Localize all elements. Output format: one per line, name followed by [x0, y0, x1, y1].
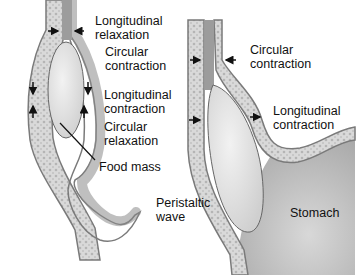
- label-line: contraction: [104, 102, 171, 116]
- label-longitudinal-contraction-left: Longitudinal contraction: [104, 88, 171, 116]
- label-food-mass: Food mass: [99, 160, 161, 174]
- label-line: Longitudinal: [104, 88, 171, 102]
- label-line: Circular: [104, 120, 158, 134]
- label-longitudinal-contraction-right: Longitudinal contraction: [273, 104, 340, 132]
- peristalsis-diagram: Longitudinal relaxation Circular contrac…: [0, 0, 362, 275]
- label-line: Circular: [250, 43, 311, 57]
- illustration: [0, 0, 362, 275]
- label-line: Longitudinal: [273, 104, 340, 118]
- label-circular-contraction-left: Circular contraction: [105, 45, 166, 73]
- label-longitudinal-relaxation: Longitudinal relaxation: [95, 14, 162, 42]
- label-line: contraction: [273, 118, 340, 132]
- label-circular-contraction-right: Circular contraction: [250, 43, 311, 71]
- label-line: Peristaltic: [156, 196, 210, 210]
- label-line: relaxation: [95, 28, 162, 42]
- label-stomach: Stomach: [290, 206, 339, 220]
- label-peristaltic-wave: Peristaltic wave: [156, 196, 210, 224]
- label-line: relaxation: [104, 134, 158, 148]
- label-line: Food mass: [99, 160, 161, 174]
- label-circular-relaxation: Circular relaxation: [104, 120, 158, 148]
- label-line: contraction: [250, 57, 311, 71]
- label-line: Circular: [105, 45, 166, 59]
- label-line: wave: [156, 210, 210, 224]
- label-line: Longitudinal: [95, 14, 162, 28]
- label-line: contraction: [105, 59, 166, 73]
- label-line: Stomach: [290, 206, 339, 220]
